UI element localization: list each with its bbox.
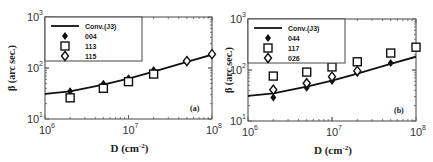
legend-label: 026 — [288, 55, 300, 62]
x-axis-label: D (cm-2) — [314, 144, 352, 157]
svg-text:1: 1 — [39, 111, 43, 118]
svg-text:3: 3 — [242, 11, 246, 18]
x-tick-label: 10 — [39, 124, 51, 136]
svg-text:2: 2 — [39, 60, 43, 67]
legend: Conv.(J3)044117026 — [248, 19, 345, 63]
series-115-marker — [209, 50, 216, 59]
panel-label: (a) — [190, 104, 200, 113]
x-tick-label: 10 — [206, 124, 218, 136]
x-axis-label: D (cm-2) — [111, 142, 149, 155]
x-tick-label: 10 — [123, 124, 135, 136]
x-tick-label: 10 — [410, 126, 422, 138]
y-tick-label: 10 — [27, 113, 39, 125]
series-113-marker — [150, 70, 158, 78]
y-tick-label: 10 — [230, 115, 242, 127]
svg-text:1: 1 — [242, 113, 246, 120]
panel-b: 106107108101102103β (arc sec.)D (cm-2)(b… — [223, 11, 426, 157]
legend-label: Conv.(J3) — [288, 25, 319, 33]
legend-label: 115 — [85, 53, 96, 60]
svg-text:3: 3 — [39, 9, 43, 16]
series-113-marker — [125, 78, 133, 86]
legend-117-marker — [264, 44, 272, 52]
series-113-marker — [99, 84, 107, 92]
x-tick-label: 10 — [242, 126, 254, 138]
series-117-marker — [353, 58, 361, 66]
series-117-marker — [412, 43, 420, 51]
panel-label: (b) — [394, 106, 404, 115]
y-axis-label: β (arc sec.) — [223, 47, 235, 93]
series-117-marker — [269, 72, 277, 80]
series-113-marker — [66, 94, 74, 102]
svg-text:7: 7 — [135, 122, 139, 129]
svg-text:7: 7 — [338, 124, 342, 131]
y-tick-label: 10 — [230, 13, 242, 25]
legend-label: 044 — [288, 35, 300, 42]
series-117-marker — [303, 68, 311, 76]
y-tick-label: 10 — [27, 11, 39, 23]
x-tick-label: 10 — [326, 126, 338, 138]
panel-a: 106107108101102103β (arc sec.)D (cm-2)(a… — [6, 9, 222, 155]
svg-text:2: 2 — [242, 62, 246, 69]
y-tick-label: 10 — [27, 62, 39, 74]
figure: 106107108101102103β (arc sec.)D (cm-2)(a… — [0, 0, 433, 162]
svg-text:8: 8 — [422, 124, 426, 131]
svg-text:6: 6 — [254, 124, 258, 131]
series-117-marker — [387, 49, 395, 57]
series-115-marker — [183, 57, 190, 66]
legend-label: 113 — [85, 43, 96, 50]
legend-label: 117 — [288, 45, 299, 52]
legend-label: Conv.(J3) — [85, 23, 116, 31]
y-axis-label: β (arc sec.) — [6, 45, 18, 91]
svg-text:8: 8 — [218, 122, 222, 129]
svg-text:6: 6 — [51, 122, 55, 129]
legend: Conv.(J3)004113115 — [45, 17, 142, 61]
legend-113-marker — [61, 42, 69, 50]
legend-label: 004 — [85, 33, 97, 40]
series-117-marker — [328, 63, 336, 71]
series-044-marker — [388, 59, 394, 67]
